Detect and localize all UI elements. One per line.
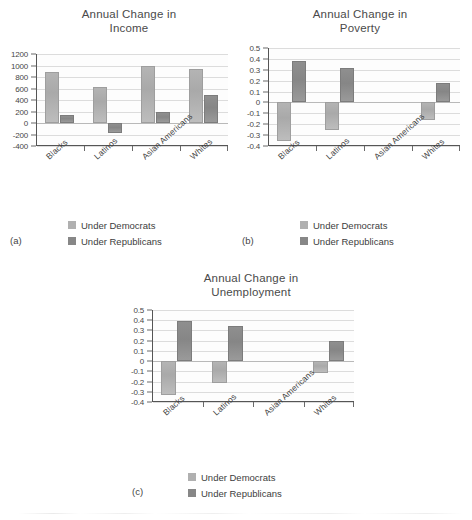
legend-label-democrats: Under Democrats bbox=[81, 220, 155, 231]
panel-tag-c: (c) bbox=[132, 486, 143, 497]
bar-whites-republicans bbox=[329, 341, 344, 361]
y-tick-label: 0.1 bbox=[249, 87, 260, 96]
chart-title-income: Annual Change in Income bbox=[24, 8, 234, 35]
y-tick-label: 0.3 bbox=[133, 326, 144, 335]
y-tick-label: 400 bbox=[15, 96, 28, 105]
y-tick-label: -0.1 bbox=[247, 109, 260, 118]
legend-swatch-republicans-icon bbox=[68, 237, 76, 245]
legend-income: Under Democrats Under Republicans bbox=[68, 218, 162, 250]
gridline bbox=[269, 59, 460, 60]
chart-title-unemployment: Annual Change in Unemployment bbox=[140, 272, 362, 299]
x-axis-unemployment: BlacksLatinosAsian AmericansWhites bbox=[152, 402, 354, 462]
y-tick-label: -0.1 bbox=[131, 367, 144, 376]
chart-title-income-line1: Annual Change in bbox=[24, 8, 234, 22]
gridline bbox=[37, 54, 228, 55]
y-axis-income: 120010008006004002000-200-400 bbox=[6, 54, 32, 146]
gridline bbox=[153, 392, 354, 393]
y-tick-label: 0.4 bbox=[133, 316, 144, 325]
plot-area-unemployment: 0.50.40.30.20.10-0.1-0.2-0.3-0.4 bbox=[122, 310, 362, 402]
x-tick-mark bbox=[364, 146, 365, 151]
x-tick-mark bbox=[84, 146, 85, 151]
y-axis-unemployment: 0.50.40.30.20.10-0.1-0.2-0.3-0.4 bbox=[122, 310, 148, 402]
zero-line bbox=[37, 123, 228, 124]
x-tick-mark bbox=[304, 402, 305, 407]
x-tick-mark bbox=[132, 146, 133, 151]
gridline bbox=[153, 382, 354, 383]
legend-label-republicans: Under Republicans bbox=[81, 236, 162, 247]
legend-poverty: Under Democrats Under Republicans bbox=[300, 218, 394, 250]
bar-latinos-republicans bbox=[340, 68, 354, 103]
legend-item-democrats: Under Democrats bbox=[68, 218, 162, 232]
y-tick-label: 1000 bbox=[11, 61, 28, 70]
bar-latinos-democrats bbox=[212, 361, 227, 382]
bar-whites-republicans bbox=[204, 95, 218, 123]
gridline bbox=[153, 310, 354, 311]
x-tick-mark bbox=[203, 402, 204, 407]
x-tick-mark bbox=[459, 146, 460, 151]
bar-blacks-republicans bbox=[177, 321, 192, 361]
legend-label-democrats: Under Democrats bbox=[313, 220, 387, 231]
x-axis-income: BlacksLatinosAsian AmericansWhites bbox=[36, 146, 228, 206]
legend-swatch-democrats-icon bbox=[188, 473, 196, 481]
legend-item-democrats: Under Democrats bbox=[188, 470, 282, 484]
chart-title-unemployment-line1: Annual Change in bbox=[140, 272, 362, 286]
panel-tag-b: (b) bbox=[242, 235, 254, 246]
gridline bbox=[269, 135, 460, 136]
chart-title-poverty: Annual Change in Poverty bbox=[254, 8, 466, 35]
bar-whites-republicans bbox=[436, 83, 450, 103]
plot-area-poverty: 0.50.40.30.20.10-0.1-0.2-0.3-0.4 bbox=[238, 48, 466, 146]
y-tick-label: 0.2 bbox=[133, 336, 144, 345]
bar-blacks-democrats bbox=[45, 72, 59, 123]
bar-blacks-democrats bbox=[161, 361, 176, 395]
gridline bbox=[269, 124, 460, 125]
y-tick-label: 0.4 bbox=[249, 54, 260, 63]
legend-item-democrats: Under Democrats bbox=[300, 218, 394, 232]
bar-latinos-democrats bbox=[93, 87, 107, 123]
x-tick-mark bbox=[412, 146, 413, 151]
y-tick-label: 800 bbox=[15, 73, 28, 82]
bar-blacks-democrats bbox=[277, 102, 291, 140]
legend-label-democrats: Under Democrats bbox=[201, 472, 275, 483]
y-tick-label: -0.2 bbox=[131, 377, 144, 386]
plot-frame-unemployment bbox=[152, 310, 354, 402]
bar-latinos-democrats bbox=[325, 102, 339, 129]
bar-blacks-republicans bbox=[292, 61, 306, 102]
y-tick-label: -200 bbox=[13, 130, 28, 139]
chart-title-unemployment-line2: Unemployment bbox=[140, 286, 362, 300]
panel-tag-a: (a) bbox=[10, 235, 22, 246]
bar-whites-democrats bbox=[313, 361, 328, 373]
y-tick-label: 0.1 bbox=[133, 346, 144, 355]
x-tick-mark bbox=[316, 146, 317, 151]
panel-poverty: Annual Change in Poverty 0.50.40.30.20.1… bbox=[238, 8, 466, 258]
chart-title-poverty-line2: Poverty bbox=[254, 22, 466, 36]
y-axis-poverty: 0.50.40.30.20.10-0.1-0.2-0.3-0.4 bbox=[238, 48, 264, 146]
legend-item-republicans: Under Republicans bbox=[188, 486, 282, 500]
legend-unemployment: Under Democrats Under Republicans bbox=[188, 470, 282, 502]
legend-item-republicans: Under Republicans bbox=[300, 234, 394, 248]
y-tick-label: -0.3 bbox=[131, 387, 144, 396]
y-tick-label: 0.5 bbox=[249, 44, 260, 53]
y-tick-label: 0.3 bbox=[249, 65, 260, 74]
y-tick-label: 0 bbox=[256, 98, 260, 107]
y-tick-label: 0.2 bbox=[249, 76, 260, 85]
x-tick-mark bbox=[227, 146, 228, 151]
legend-label-republicans: Under Republicans bbox=[313, 236, 394, 247]
x-tick-mark bbox=[253, 402, 254, 407]
bar-asian-americans-democrats bbox=[141, 66, 155, 123]
bar-latinos-republicans bbox=[228, 326, 243, 361]
chart-title-poverty-line1: Annual Change in bbox=[254, 8, 466, 22]
gridline bbox=[37, 66, 228, 67]
plot-frame-poverty bbox=[268, 48, 460, 146]
scan-artifact-line bbox=[18, 513, 462, 514]
bar-blacks-republicans bbox=[60, 115, 74, 123]
y-tick-label: -0.4 bbox=[131, 398, 144, 407]
y-tick-label: 200 bbox=[15, 107, 28, 116]
legend-swatch-democrats-icon bbox=[68, 221, 76, 229]
x-axis-poverty: BlacksLatinosAsian AmericansWhites bbox=[268, 146, 460, 206]
y-tick-label: 0 bbox=[24, 119, 28, 128]
legend-swatch-republicans-icon bbox=[188, 489, 196, 497]
legend-label-republicans: Under Republicans bbox=[201, 488, 282, 499]
x-tick-mark bbox=[180, 146, 181, 151]
y-tick-label: -0.2 bbox=[247, 120, 260, 129]
y-tick-label: 1200 bbox=[11, 50, 28, 59]
